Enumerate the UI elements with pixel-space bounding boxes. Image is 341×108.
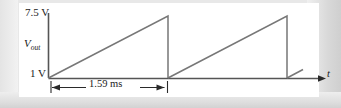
- waveform-ramp-1: [49, 16, 169, 78]
- y-axis-min-label: 1 V: [30, 68, 46, 79]
- x-axis-arrowhead: [318, 75, 326, 81]
- y-axis-symbol: V: [24, 37, 31, 49]
- period-arrowhead-left: [52, 84, 60, 90]
- y-axis-title: Vout: [24, 38, 40, 49]
- y-axis-subscript: out: [31, 43, 41, 52]
- period-label: 1.59 ms: [89, 79, 122, 90]
- x-axis-label: t: [327, 69, 330, 80]
- waveform-ramp-2: [168, 16, 287, 78]
- waveform-ramp-3-partial: [287, 70, 303, 79]
- y-axis-max-label: 7.5 V: [25, 7, 49, 18]
- figure-screenshot: 7.5 V 1 V Vout 1.59 ms t: [0, 0, 341, 108]
- sawtooth-waveform-plot: [0, 0, 341, 108]
- period-arrowhead-right: [157, 84, 165, 90]
